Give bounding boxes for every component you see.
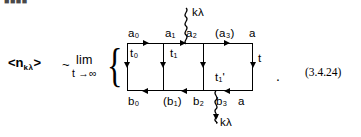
angle-bracket-open-icon: < [8,55,16,70]
sentence-period: . [276,68,280,84]
bottom-edge-arrow-1 [142,88,148,94]
occupation-number-symbol: n [16,55,24,70]
vertex-label-a0: a₀ [128,27,140,39]
time-label-t-right: t [258,52,261,64]
vertex-label-b0: b₀ [128,95,140,107]
photon-bottom-arrow [213,114,219,120]
vertical-line-2-arrow [200,62,206,68]
figure-canvas: ■■■■ <nkλ> ~ lim t →∞ { kλ kλ a₀ a₁ a₂ (… [0,0,361,137]
left-edge-arrow [124,62,130,68]
fermion-loop-box [127,43,253,91]
vertex-label-a-bottom: a [238,95,245,107]
asymptotic-relation-symbol: ~ [62,57,70,72]
vertex-label-b3: b₃ [216,95,227,107]
angle-bracket-close-icon: > [33,55,41,70]
photon-label-top: kλ [192,6,204,18]
limit-operator: lim t →∞ [72,54,97,79]
vertex-label-a3: (a₃) [215,27,235,39]
vertex-label-b2: b₂ [193,95,204,107]
grouping-brace: { [107,38,122,94]
vertex-label-a1: a₁ [165,27,176,39]
bottom-edge-arrow-3 [224,88,230,94]
time-label-t1: t₁ [170,47,177,59]
limit-keyword: lim [72,54,97,68]
equation-number: (3.4.24) [305,66,341,78]
vertex-label-a2: a₂ [186,27,197,39]
top-edge-arrow-3 [224,40,230,46]
limit-condition: t →∞ [72,68,97,79]
expectation-value-expression: <nkλ> [8,55,41,72]
top-edge-arrow-1 [143,40,149,46]
vertical-line-1-arrow [160,62,166,68]
bottom-edge-arrow-2 [181,88,187,94]
right-edge-arrow [250,62,256,68]
vertex-label-b1: (b₁) [163,95,182,107]
photon-label-bottom: kλ [220,116,232,128]
cropped-text-fragment: ■■■■ [4,0,28,5]
mode-subscript: kλ [24,63,34,72]
time-label-t1-prime: t₁' [215,71,225,83]
vertex-label-a-top: a [249,27,256,39]
time-label-t0: t₀ [130,47,138,59]
